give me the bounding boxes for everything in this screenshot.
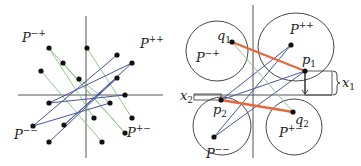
blue-edge [49,78,117,142]
label-p-plus-minus: P+− [126,123,151,140]
label-p2: p2 [213,102,227,119]
point [114,75,119,80]
point [129,115,134,120]
right-panel: x1 x2 P−+ P++ P−− P+− q1 q2 p1 p2 [180,5,355,161]
label-x2: x2 [180,88,193,105]
point [91,115,96,120]
label-right-p-plus-plus: P++ [289,20,314,37]
point [46,139,51,144]
label-p-plus-plus: P++ [139,34,164,51]
label-q2: q2 [295,112,309,129]
point-pp [288,42,293,47]
blue-edge [221,71,305,100]
point [107,100,112,105]
point [60,60,65,65]
label-x1: x1 [342,75,355,92]
label-right-p-minus-plus: P−+ [195,48,220,65]
blue-edge [221,45,291,100]
label-right-p-minus-minus: P−− [205,144,230,161]
point [38,68,43,73]
point [76,76,81,81]
orange-edge [232,42,305,71]
blue-edge [49,63,132,103]
label-q1: q1 [217,28,231,45]
left-panel: P−+ P++ P−− P+− [13,16,164,158]
label-p-minus-minus: P−− [13,125,38,142]
blue-edge [49,95,125,103]
point [84,45,89,50]
point [61,122,66,127]
figure: P−+ P++ P−− P+− x1 x2 P−+ P++ P−− P+− q1… [0,0,361,166]
point [46,45,51,50]
green-edge [49,48,94,118]
label-p1: p1 [302,52,316,69]
left-blue-edges [33,55,132,142]
point [99,139,104,144]
x1-brace [333,71,340,95]
point-mm [211,134,216,139]
point [46,100,51,105]
point [114,52,119,57]
label-p-minus-plus: P−+ [21,28,46,45]
point [122,92,127,97]
point [129,60,134,65]
point-p1 [302,68,307,73]
